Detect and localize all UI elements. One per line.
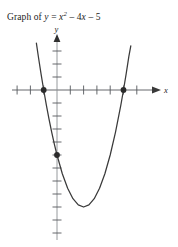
y-axis-arrowhead <box>54 34 61 42</box>
x-axis-arrowhead <box>152 87 161 94</box>
point-y-intercept <box>54 152 60 158</box>
coordinate-plot: x y <box>0 0 178 247</box>
y-axis-group: y <box>54 24 61 240</box>
point-x-intercept-left <box>41 87 47 93</box>
point-x-intercept-right <box>121 87 127 93</box>
marked-points-group <box>41 87 127 158</box>
x-axis-label: x <box>163 85 168 95</box>
y-axis-label: y <box>54 24 59 34</box>
graph-figure: Graph of y = x2 – 4x – 5 x y <box>0 0 178 247</box>
parabola-curve <box>36 43 130 207</box>
x-axis-group: x <box>12 85 168 95</box>
